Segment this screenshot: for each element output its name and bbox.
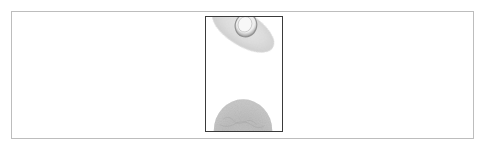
- micrograph-svg: [206, 17, 282, 131]
- bottom-cell: [214, 99, 272, 131]
- figure-canvas: [0, 0, 482, 147]
- top-cell: [206, 17, 282, 62]
- micrograph-image: [205, 16, 283, 132]
